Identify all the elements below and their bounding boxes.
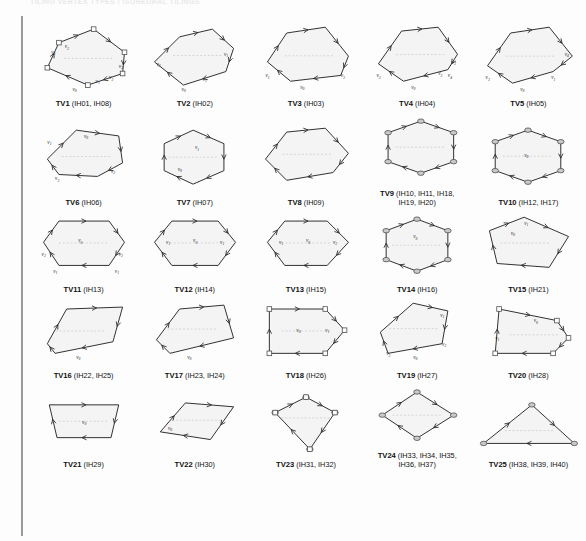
vertex-label: v1 xyxy=(47,139,51,146)
polygon-diagram xyxy=(474,390,582,466)
figure-shape-tv5: v3v4v1v0 xyxy=(474,22,582,98)
figure-caption-tv3: TV3 (IH03) xyxy=(288,99,324,108)
vertex-label: v0 xyxy=(76,354,80,361)
vertex-marker xyxy=(445,257,452,261)
figure-codes-label: (IH03) xyxy=(302,99,324,108)
figure-cell-tv12: v1v0v1TV12 (IH14) xyxy=(139,216,250,302)
polygon-diagram: v1v0v2 xyxy=(252,212,360,288)
figure-shape-tv4: v3v3v2v4v0 xyxy=(363,22,471,98)
figure-page: TILING VERTEX TYPES / ISOHEDRAL TILINGS … xyxy=(0,0,586,541)
figure-cell-tv8: TV8 (IH09) xyxy=(250,116,361,215)
right-angle-marker xyxy=(120,71,125,76)
figure-cell-tv10: v0TV10 (IH12, IH17) xyxy=(473,116,584,215)
figure-codes-label: (IH05) xyxy=(524,99,546,108)
figure-cell-tv1: v3v2v3v2v1v0TV1 (IH01, IH08) xyxy=(28,22,139,116)
figure-shape-tv16: v0 xyxy=(30,302,138,370)
polygon-outline xyxy=(496,309,569,353)
figure-cell-tv3: v1v3v0TV3 (IH03) xyxy=(250,22,361,116)
polygon-diagram: v0 xyxy=(141,298,249,374)
right-angle-marker xyxy=(267,306,272,311)
vertex-label: v4 xyxy=(448,72,452,79)
figure-codes-label-cont: IH36, IH37) xyxy=(399,460,436,469)
right-angle-marker xyxy=(497,306,502,311)
polygon-diagram: v1v0v2v3 xyxy=(30,123,138,199)
vertex-label: v3 xyxy=(341,72,345,79)
figure-shape-tv22: v0 xyxy=(141,397,249,459)
figure-cell-tv24: TV24 (IH33, IH34, IH35,IH36, IH37) xyxy=(362,388,473,477)
figure-id-label: TV9 xyxy=(380,189,394,198)
figure-cell-tv18: v0v1TV18 (IH26) xyxy=(250,302,361,388)
vertex-label: v2 xyxy=(41,250,45,257)
figure-codes-label: (IH04) xyxy=(413,99,435,108)
polygon-diagram: v3v2v3v2v1v0 xyxy=(30,22,138,98)
vertex-marker xyxy=(481,441,488,445)
figure-codes-label: (IH01, IH08) xyxy=(70,99,112,108)
vertex-marker xyxy=(385,131,392,135)
figure-codes-label: (IH12, IH17) xyxy=(517,198,559,207)
right-angle-marker xyxy=(323,306,328,311)
polygon-diagram: v1v3v0 xyxy=(252,22,360,98)
right-angle-marker xyxy=(273,410,278,415)
vertex-marker xyxy=(525,180,532,184)
right-angle-marker xyxy=(333,410,338,415)
vertex-marker xyxy=(414,390,421,394)
figure-shape-tv3: v1v3v0 xyxy=(252,22,360,98)
figure-cell-tv20: v0v1TV20 (IH28) xyxy=(473,302,584,388)
right-angle-marker xyxy=(56,40,61,45)
figure-codes-label: (IH09) xyxy=(302,198,324,207)
right-angle-marker xyxy=(567,335,572,340)
polygon-diagram xyxy=(252,123,360,199)
right-angle-marker xyxy=(85,83,90,88)
vertex-marker xyxy=(414,269,421,273)
vertex-marker xyxy=(451,413,458,417)
figure-caption-tv1: TV1 (IH01, IH08) xyxy=(56,99,112,108)
right-angle-marker xyxy=(45,65,50,70)
figure-codes-label-cont: IH19, IH20) xyxy=(399,198,436,207)
figure-cell-tv4: v3v3v2v4v0TV4 (IH04) xyxy=(362,22,473,116)
polygon-diagram: v1v0v1 xyxy=(141,212,249,288)
vertex-marker xyxy=(379,413,386,417)
figure-cell-tv14: v0TV14 (IH16) xyxy=(362,216,473,302)
figure-shape-tv12: v1v0v1 xyxy=(141,216,249,284)
polygon-outline xyxy=(269,309,344,353)
right-angle-marker xyxy=(91,27,96,32)
polygon-outline xyxy=(490,217,569,267)
figure-id-label: TV3 xyxy=(288,99,302,108)
figure-shape-tv14: v0 xyxy=(363,216,471,284)
polygon-outline xyxy=(160,403,233,440)
vertex-label: v1 xyxy=(265,72,269,79)
vertex-marker xyxy=(418,119,425,123)
vertex-label: v0 xyxy=(521,86,525,93)
vertex-marker xyxy=(414,217,421,221)
figure-cell-tv17: v0TV17 (IH23, IH24) xyxy=(139,302,250,388)
vertex-label: v0 xyxy=(187,354,191,361)
figure-id-label: TV8 xyxy=(288,198,302,207)
polygon-diagram: v0 xyxy=(474,123,582,199)
figure-caption-tv8: TV8 (IH09) xyxy=(288,198,324,207)
figure-codes-label: (IH10, IH11, IH18, xyxy=(394,189,454,198)
figure-shape-tv18: v0v1 xyxy=(252,302,360,370)
right-angle-marker xyxy=(551,351,556,356)
figure-shape-tv20: v0v1 xyxy=(474,302,582,370)
figure-shape-tv13: v1v0v2 xyxy=(252,216,360,284)
figure-shape-tv7: v1v0 xyxy=(141,125,249,197)
figure-id-label: TV1 xyxy=(56,99,70,108)
figure-shape-tv1: v3v2v3v2v1v0 xyxy=(30,22,138,98)
figure-cell-tv2: v2v1v1v0TV2 (IH02) xyxy=(139,22,250,116)
polygon-diagram: v0v2v2v1v1 xyxy=(30,212,138,288)
vertex-marker xyxy=(571,441,578,445)
figure-id-label: TV2 xyxy=(177,99,191,108)
figure-cell-tv6: v1v0v2v3TV6 (IH06) xyxy=(28,116,139,215)
vertex-label: v0 xyxy=(72,86,76,93)
polygon-diagram: v1v0 xyxy=(474,212,582,288)
figure-shape-tv11: v0v2v2v1v1 xyxy=(30,216,138,284)
vertex-marker xyxy=(492,169,499,173)
vertex-label: v0 xyxy=(181,86,185,93)
polygon-diagram xyxy=(363,381,471,457)
polygon-diagram: v0 xyxy=(30,390,138,466)
figure-cell-tv19: v1v2v3v0TV19 (IH27) xyxy=(362,302,473,388)
figure-caption-tv5: TV5 (IH05) xyxy=(510,99,546,108)
figure-cell-tv25: TV25 (IH38, IH39, IH40) xyxy=(473,388,584,477)
figure-shape-tv21: v0 xyxy=(30,397,138,459)
polygon-outline xyxy=(267,27,348,81)
